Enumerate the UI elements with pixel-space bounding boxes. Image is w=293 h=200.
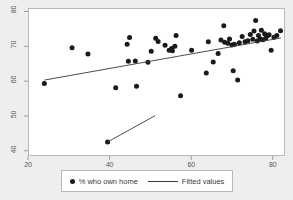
- dot-marker-icon: [70, 179, 75, 184]
- x-tick-label: 60: [183, 161, 199, 168]
- legend-label-fitted-values: Fitted values: [182, 177, 225, 186]
- y-tick-label: 60: [10, 73, 17, 87]
- chart-figure: 4050607080 20406080 % who own home Fitte…: [0, 0, 293, 200]
- legend-item-own-home: % who own home: [70, 177, 138, 186]
- line-marker-icon: [148, 181, 178, 182]
- y-tick-label: 50: [10, 107, 17, 121]
- x-tick-label: 80: [265, 161, 281, 168]
- x-tick-label: 20: [20, 161, 36, 168]
- legend-label-own-home: % who own home: [79, 177, 138, 186]
- legend-item-fitted-values: Fitted values: [148, 177, 225, 186]
- y-tick-label: 40: [10, 142, 17, 156]
- x-tick-label: 40: [102, 161, 118, 168]
- y-tick-label: 70: [10, 38, 17, 52]
- plot-area: [28, 8, 285, 156]
- y-tick-label: 80: [10, 3, 17, 17]
- chart-legend: % who own home Fitted values: [61, 170, 233, 192]
